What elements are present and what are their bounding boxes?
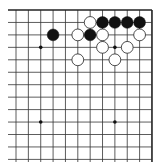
star-point: [39, 46, 43, 50]
star-point: [113, 46, 117, 50]
white-stone: [72, 54, 84, 66]
stones: [47, 17, 145, 66]
star-point: [39, 120, 43, 124]
black-stone: [97, 17, 109, 29]
black-stone: [109, 17, 121, 29]
black-stone: [121, 17, 133, 29]
black-stone: [84, 29, 96, 41]
black-stone: [134, 17, 146, 29]
white-stone: [72, 29, 84, 41]
star-point: [113, 120, 117, 124]
white-stone: [134, 29, 146, 41]
go-board[interactable]: [0, 0, 158, 162]
white-stone: [109, 54, 121, 66]
white-stone: [97, 41, 109, 53]
black-stone: [47, 29, 59, 41]
white-stone: [97, 29, 109, 41]
white-stone: [121, 41, 133, 53]
white-stone: [84, 17, 96, 29]
